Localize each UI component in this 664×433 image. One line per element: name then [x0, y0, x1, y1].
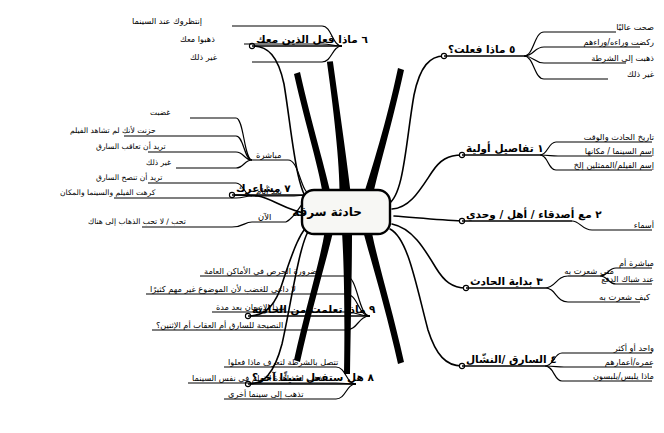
branch-number-2: ٢	[595, 208, 601, 220]
sub-label-6-1[interactable]: ذهبوا معك	[180, 35, 215, 43]
sub-label-8-2[interactable]: تذهب إلى سينما أخرى	[228, 390, 304, 398]
sub-label-8-0[interactable]: تتصل بالشرطة لتعرف ماذا فعلوا	[228, 358, 338, 366]
branch-label-4[interactable]: ٤ السارق /النشّال	[466, 354, 557, 365]
sub2-label-7-1-0[interactable]: تريد أن تنصح السارق	[96, 174, 162, 182]
sub-label-7-1[interactable]: بعد أيام	[256, 187, 282, 195]
sub-label-6-0[interactable]: إنتظروك عند السينما	[132, 17, 202, 25]
sub-label-7-0[interactable]: مباشرة	[256, 151, 282, 159]
sub2-label-3-0-1[interactable]: عند شباك الدفع	[601, 275, 654, 283]
center-node-label: حادثة سرقة	[282, 205, 372, 219]
branch-label-6[interactable]: ٦ ماذا فعل الذين معك	[256, 34, 368, 45]
sub2-label-7-0-2[interactable]: تريد أن تعاقب السارق	[96, 143, 166, 151]
sub-label-1-2[interactable]: إسم الفيلم/الممثلين إلخ	[574, 161, 654, 169]
sub2-label-7-0-1[interactable]: حزنت لأنك لم تشاهد الفيلم	[70, 127, 156, 135]
branch-number-5: ٥	[509, 43, 515, 55]
branch-label-5[interactable]: ٥ ماذا فعلت؟	[448, 44, 515, 55]
branch-number-8: ٨	[367, 371, 373, 383]
sub-label-1-0[interactable]: تاريخ الحادث والوقت	[584, 133, 654, 141]
branch-text-5: ماذا فعلت؟	[448, 43, 505, 55]
sub-label-9-1[interactable]: لا داعي للغضب لأن الموضوع غير مهم كثيرًا	[150, 285, 296, 293]
branch-number-4: ٤	[550, 353, 556, 365]
sub2-label-7-2-0[interactable]: تحب / لا تحب الذهاب إلى هناك	[88, 218, 186, 226]
branch-number-3: ٣	[536, 275, 542, 287]
branch-number-7: ٧	[284, 182, 290, 194]
sub-label-9-2[interactable]: يهدأ الإنسان بعد مدة	[216, 303, 285, 311]
branch-text-1: تفاصيل أولية	[466, 142, 534, 154]
branch-text-3: بداية الحادث	[470, 275, 533, 287]
sub-label-2-0[interactable]: أسماء	[634, 221, 654, 229]
branch-label-3[interactable]: ٣ بداية الحادث	[470, 276, 543, 287]
sub2-label-7-0-0[interactable]: غضبت	[150, 109, 170, 117]
branch-label-2[interactable]: ٢ مع أصدقاء / أهل / وحدي	[466, 209, 602, 220]
branch-text-2: مع أصدقاء / أهل / وحدي	[466, 208, 592, 220]
sub-label-1-1[interactable]: إسم السينما / مكانها	[585, 147, 654, 155]
sub-label-9-0[interactable]: ضرورة الحرص في الأماكن العامة	[204, 267, 317, 275]
sub-label-7-2[interactable]: الآن	[258, 213, 271, 221]
branch-text-4: السارق /النشّال	[466, 353, 547, 365]
sub-label-8-1[interactable]: تذهب لمشاهدة الفيلم في نفس السينما	[192, 374, 325, 382]
sub-label-9-3[interactable]: النصيحة للسارق أم العقاب أم الإثنين؟	[156, 321, 283, 329]
branch-label-1[interactable]: ١ تفاصيل أولية	[466, 143, 544, 154]
sub-label-5-1[interactable]: ركضت وراءه/وراءهم	[584, 38, 654, 46]
sub2-label-3-0-0[interactable]: مباشرة أم	[619, 259, 654, 267]
sub-label-5-3[interactable]: غير ذلك	[627, 70, 654, 78]
sub-label-4-1[interactable]: عمره/أعمارهم	[605, 358, 654, 366]
branch-number-9: ٩	[369, 303, 375, 315]
sub-label-5-2[interactable]: ذهبت إلى الشرطة	[591, 54, 654, 62]
sub-label-3-1[interactable]: كيف شعرت به	[599, 293, 650, 301]
sub-label-4-2[interactable]: ماذا يلبس/يلبسون	[593, 372, 654, 380]
sub2-label-7-1-1[interactable]: كرهت الفيلم والسينما والمكان	[60, 189, 155, 197]
sub2-label-7-0-3[interactable]: غير ذلك	[146, 159, 171, 167]
branch-number-1: ١	[537, 142, 543, 154]
sub-label-5-0[interactable]: صحت عاليًا	[616, 23, 654, 31]
branch-number-6: ٦	[361, 33, 367, 45]
branch-text-6: ماذا فعل الذين معك	[256, 33, 358, 45]
sub-label-6-2[interactable]: غير ذلك	[190, 53, 217, 61]
sub-label-4-0[interactable]: واحد أو أكثر	[614, 344, 654, 352]
